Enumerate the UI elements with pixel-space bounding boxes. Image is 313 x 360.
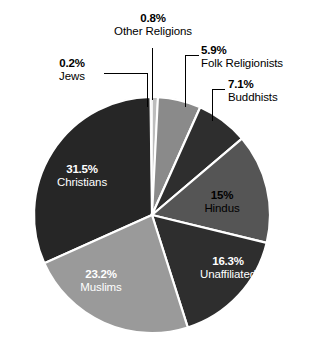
label-christians: 31.5% Christians bbox=[27, 163, 137, 189]
leader-line-buddhists-horizontal bbox=[212, 89, 225, 90]
callout-jews-name: Jews bbox=[42, 70, 102, 83]
label-unaffiliated: 16.3% Unaffiliated bbox=[180, 255, 276, 281]
pie-chart: 0.8% Other Religions 0.2% Jews 5.9% Folk… bbox=[0, 0, 313, 360]
callout-buddhists: 7.1% Buddhists bbox=[228, 78, 312, 104]
callout-other-religions: 0.8% Other Religions bbox=[93, 12, 213, 38]
label-christians-name: Christians bbox=[27, 176, 137, 189]
leader-line-other-religions bbox=[152, 48, 153, 100]
leader-line-jews-horizontal bbox=[104, 73, 148, 74]
callout-buddhists-pct: 7.1% bbox=[228, 78, 312, 91]
leader-line-folk-religionists-vertical bbox=[185, 55, 186, 107]
pie-slices bbox=[34, 97, 270, 333]
callout-other-religions-name: Other Religions bbox=[93, 25, 213, 38]
label-unaffiliated-name: Unaffiliated bbox=[180, 268, 276, 281]
leader-line-folk-religionists-horizontal bbox=[185, 55, 199, 56]
label-muslims-name: Muslims bbox=[55, 281, 147, 294]
leader-line-buddhists-vertical bbox=[212, 89, 213, 121]
callout-folk-religionists-name: Folk Religionists bbox=[201, 57, 311, 70]
callout-folk-religionists: 5.9% Folk Religionists bbox=[201, 44, 311, 70]
callout-other-religions-pct: 0.8% bbox=[93, 12, 213, 25]
callout-jews-pct: 0.2% bbox=[42, 57, 102, 70]
label-hindus-name: Hindus bbox=[185, 202, 259, 215]
label-christians-pct: 31.5% bbox=[27, 163, 137, 176]
label-hindus-pct: 15% bbox=[185, 189, 259, 202]
label-muslims: 23.2% Muslims bbox=[55, 268, 147, 294]
label-unaffiliated-pct: 16.3% bbox=[180, 255, 276, 268]
label-muslims-pct: 23.2% bbox=[55, 268, 147, 281]
leader-line-jews-vertical bbox=[147, 73, 148, 107]
callout-folk-religionists-pct: 5.9% bbox=[201, 44, 311, 57]
callout-jews: 0.2% Jews bbox=[42, 57, 102, 83]
label-hindus: 15% Hindus bbox=[185, 189, 259, 215]
callout-buddhists-name: Buddhists bbox=[228, 91, 312, 104]
